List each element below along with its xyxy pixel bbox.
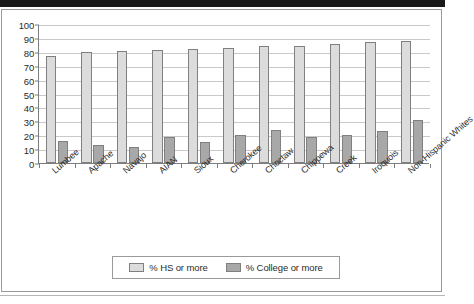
bar-hs: [259, 46, 270, 163]
y-axis-tick-label: 30: [24, 117, 34, 128]
y-axis-tick-mark: [35, 52, 39, 53]
legend-swatch-hs-icon: [129, 263, 144, 272]
x-axis-tick-mark: [252, 164, 253, 168]
legend-item-college: % College or more: [226, 262, 323, 273]
bar-hs: [188, 49, 199, 163]
chart-legend: % HS or more % College or more: [112, 256, 340, 279]
bar-group: [117, 24, 140, 163]
y-axis-tick-label: 50: [24, 89, 34, 100]
legend-label-hs: % HS or more: [149, 262, 207, 273]
y-axis-tick-mark: [35, 122, 39, 123]
figure-frame: 0102030405060708090100 % HS or more % Co…: [1, 9, 442, 292]
bar-group: [401, 24, 424, 163]
y-axis-tick-mark: [35, 108, 39, 109]
bar-group: [188, 24, 211, 163]
y-axis-tick-mark: [35, 38, 39, 39]
x-axis-tick-mark: [75, 164, 76, 168]
y-axis-tick-mark: [35, 136, 39, 137]
bar-chart: 0102030405060708090100 % HS or more % Co…: [2, 10, 443, 293]
y-axis-tick-mark: [35, 94, 39, 95]
y-axis-tick-label: 70: [24, 61, 34, 72]
page-rule: [0, 295, 445, 296]
bar-group: [294, 24, 317, 163]
bar-hs: [152, 50, 163, 163]
y-axis-tick-label: 40: [24, 103, 34, 114]
y-axis-tick-mark: [35, 80, 39, 81]
legend-label-college: % College or more: [246, 262, 323, 273]
bar-hs: [81, 52, 92, 163]
bar-group: [46, 24, 69, 163]
x-axis-tick-mark: [146, 164, 147, 168]
legend-swatch-college-icon: [226, 263, 241, 272]
bar-hs: [46, 56, 57, 163]
x-axis-tick-mark: [110, 164, 111, 168]
bar-group: [223, 24, 246, 163]
x-axis-tick-mark: [430, 164, 431, 168]
y-axis-tick-label: 20: [24, 131, 34, 142]
y-axis-tick-mark: [35, 66, 39, 67]
bar-group: [152, 24, 175, 163]
scan-artifact-band: [0, 0, 445, 7]
x-axis-tick-mark: [181, 164, 182, 168]
bar-group: [259, 24, 282, 163]
plot-area: 0102030405060708090100: [38, 25, 429, 164]
x-axis-tick-mark: [288, 164, 289, 168]
bar-hs: [365, 42, 376, 163]
bar-group: [330, 24, 353, 163]
y-axis-tick-label: 0: [29, 159, 34, 170]
y-axis-tick-label: 90: [24, 33, 34, 44]
y-axis-tick-label: 60: [24, 75, 34, 86]
bar-hs: [401, 41, 412, 163]
y-axis-tick-label: 10: [24, 145, 34, 156]
x-axis-tick-mark: [394, 164, 395, 168]
x-axis-tick-mark: [39, 164, 40, 168]
x-axis-tick-mark: [359, 164, 360, 168]
x-axis-tick-mark: [217, 164, 218, 168]
bar-hs: [223, 48, 234, 163]
y-axis-tick-label: 80: [24, 47, 34, 58]
y-axis-tick-mark: [35, 150, 39, 151]
bar-group: [365, 24, 388, 163]
x-axis-tick-mark: [323, 164, 324, 168]
bar-hs: [117, 51, 128, 163]
bar-group: [81, 24, 104, 163]
y-axis-tick-label: 100: [19, 20, 34, 31]
y-axis-tick-mark: [35, 25, 39, 26]
bar-hs: [294, 46, 305, 163]
legend-item-hs: % HS or more: [129, 262, 207, 273]
